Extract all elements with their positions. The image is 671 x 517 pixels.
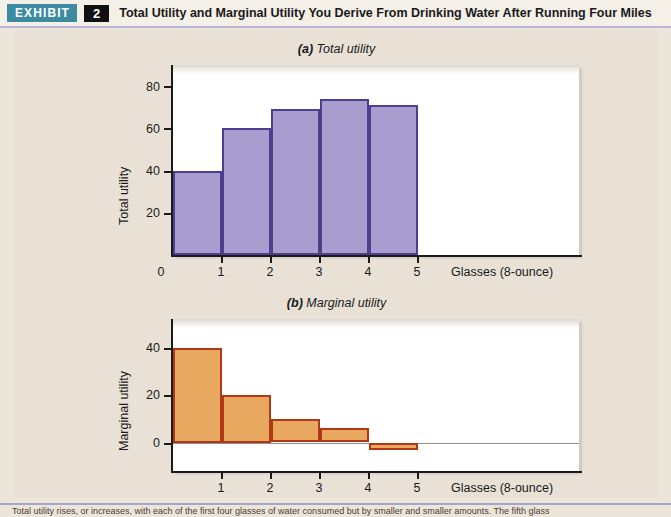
- chart-b-title: (b) Marginal utility: [14, 296, 659, 310]
- exhibit-badge: EXHIBIT: [7, 4, 77, 22]
- chart-b-x-axis: [171, 471, 582, 473]
- chart-b-ylabel-0: 0: [132, 436, 160, 450]
- chart-b-xtick-1: [221, 471, 223, 479]
- chart-b-ytick-40: [164, 348, 171, 350]
- chart-a-ylabel-40: 40: [132, 164, 160, 178]
- chart-a-xlabel-2: 2: [259, 265, 281, 279]
- chart-marginal-utility: (b) Marginal utility 0 20: [14, 288, 659, 498]
- chart-b-xlabel-5: 5: [406, 481, 428, 495]
- page-title: Total Utility and Marginal Utility You D…: [119, 6, 651, 20]
- chart-a-ylabel-80: 80: [132, 80, 160, 94]
- chart-b-xlabel-2: 2: [259, 481, 281, 495]
- chart-a-origin-label: 0: [150, 265, 172, 279]
- chart-a-x-axis: [171, 255, 582, 257]
- chart-a-xtick-3: [319, 255, 321, 263]
- chart-a-xlabel-4: 4: [357, 265, 379, 279]
- bar-marginal-1: [173, 348, 222, 443]
- chart-a-title: (a) Total utility: [14, 42, 659, 56]
- bar-total-1: [173, 171, 222, 256]
- bar-total-5: [369, 105, 418, 255]
- chart-a-title-prefix: (a): [298, 42, 313, 56]
- chart-a-x-axis-title: Glasses (8-ounce): [451, 265, 553, 279]
- chart-b-y-axis-title: Marginal utility: [117, 371, 131, 451]
- bar-total-2: [222, 128, 271, 255]
- chart-a-ytick-80: [164, 86, 171, 88]
- bar-marginal-2: [222, 395, 271, 443]
- figure-caption: Total utility rises, or increases, with …: [12, 506, 662, 517]
- chart-b-xtick-5: [417, 471, 419, 479]
- chart-b-xtick-2: [270, 471, 272, 479]
- chart-b-y-axis: [171, 319, 173, 473]
- bar-marginal-4: [320, 428, 369, 442]
- chart-a-xtick-1: [221, 255, 223, 263]
- chart-a-title-text: Total utility: [317, 42, 376, 56]
- chart-a-xtick-4: [368, 255, 370, 263]
- chart-b-xtick-3: [319, 471, 321, 479]
- exhibit-page: EXHIBIT 2 Total Utility and Marginal Uti…: [0, 0, 671, 517]
- chart-a-y-axis-title: Total utility: [117, 167, 131, 225]
- chart-a-y-axis: [171, 65, 173, 257]
- chart-b-ylabel-20: 20: [132, 388, 160, 402]
- chart-b-title-prefix: (b): [287, 296, 303, 310]
- exhibit-header: EXHIBIT 2 Total Utility and Marginal Uti…: [0, 0, 671, 26]
- chart-b-x-axis-title: Glasses (8-ounce): [451, 481, 553, 495]
- bar-total-4: [320, 99, 369, 255]
- chart-a-ytick-40: [164, 171, 171, 173]
- exhibit-number-badge: 2: [84, 5, 109, 22]
- chart-a-xlabel-1: 1: [210, 265, 232, 279]
- chart-b-ytick-0: [164, 443, 171, 445]
- chart-a-xlabel-3: 3: [308, 265, 330, 279]
- chart-a-xlabel-5: 5: [406, 265, 428, 279]
- chart-b-ylabel-40: 40: [132, 341, 160, 355]
- chart-b-xtick-4: [368, 471, 370, 479]
- chart-a-xtick-2: [270, 255, 272, 263]
- bar-marginal-5: [369, 443, 418, 450]
- chart-b-plot-glow: [173, 319, 579, 328]
- bar-marginal-3: [271, 419, 320, 443]
- chart-a-ylabel-20: 20: [132, 206, 160, 220]
- bar-total-3: [271, 109, 320, 255]
- caption-divider: [0, 503, 671, 505]
- chart-b-title-text: Marginal utility: [306, 296, 386, 310]
- chart-a-ytick-20: [164, 213, 171, 215]
- chart-total-utility: (a) Total utility 20 40 60: [14, 30, 659, 270]
- chart-a-xtick-5: [417, 255, 419, 263]
- chart-a-ylabel-60: 60: [132, 122, 160, 136]
- chart-a-plot-glow: [173, 65, 579, 74]
- chart-b-xlabel-4: 4: [357, 481, 379, 495]
- chart-b-ytick-20: [164, 395, 171, 397]
- chart-a-ytick-60: [164, 128, 171, 130]
- chart-b-xlabel-3: 3: [308, 481, 330, 495]
- figure-panel: (a) Total utility 20 40 60: [14, 30, 659, 498]
- chart-b-xlabel-1: 1: [210, 481, 232, 495]
- header-divider: [0, 26, 671, 28]
